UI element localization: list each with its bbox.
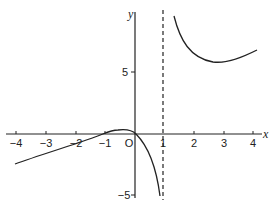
svg-text:−1: −1 [99, 137, 112, 149]
y-tick-label-neg5: −5 [118, 189, 131, 201]
svg-text:2: 2 [191, 137, 197, 149]
function-graph: −4 −3 −2 −1 O 1 2 3 4 5 −5 y x [0, 0, 276, 211]
svg-text:3: 3 [221, 137, 227, 149]
svg-text:−4: −4 [10, 137, 23, 149]
left-branch-curve [15, 130, 160, 196]
svg-text:O: O [125, 137, 134, 149]
y-axis-label: y [127, 7, 134, 21]
y-tick-label-5: 5 [122, 66, 128, 78]
x-tick-labels: −4 −3 −2 −1 O 1 2 3 4 [10, 137, 256, 149]
right-branch-curve [174, 16, 257, 62]
x-axis-label: x [262, 127, 269, 141]
svg-text:−3: −3 [40, 137, 53, 149]
svg-text:4: 4 [250, 137, 256, 149]
